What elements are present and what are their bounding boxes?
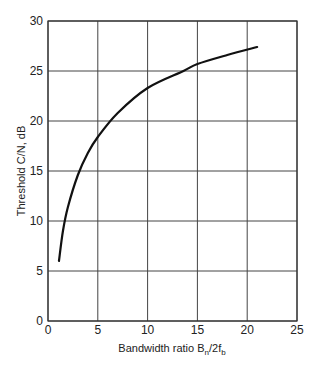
threshold-curve xyxy=(59,47,257,261)
y-tick-label: 25 xyxy=(30,64,44,78)
y-tick-label: 0 xyxy=(36,314,43,328)
y-tick-label: 10 xyxy=(30,214,44,228)
x-tick-label: 20 xyxy=(241,323,255,337)
y-tick-label: 30 xyxy=(30,14,44,28)
x-tick-label: 0 xyxy=(45,323,52,337)
grid-lines xyxy=(48,21,297,321)
y-tick-label: 15 xyxy=(30,164,44,178)
x-tick-labels: 0510152025 xyxy=(45,323,304,337)
y-tick-label: 5 xyxy=(36,264,43,278)
x-axis-label: Bandwidth ratio Bn/2fb xyxy=(118,342,226,357)
x-tick-label: 25 xyxy=(290,323,304,337)
x-tick-label: 5 xyxy=(94,323,101,337)
threshold-cn-chart: 0510152025 051015202530 Bandwidth ratio … xyxy=(0,0,317,369)
y-axis-label: Threshold C/N, dB xyxy=(15,126,27,216)
y-tick-label: 20 xyxy=(30,114,44,128)
x-tick-label: 15 xyxy=(191,323,205,337)
x-tick-label: 10 xyxy=(141,323,155,337)
y-tick-labels: 051015202530 xyxy=(30,14,44,328)
